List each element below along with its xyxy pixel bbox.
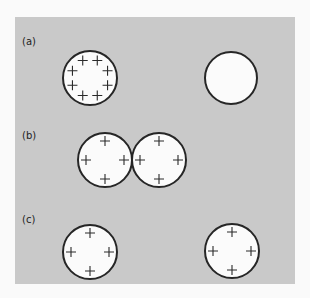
spheres-diagram [0, 0, 310, 298]
sphere-c-1 [63, 225, 117, 279]
sphere-a-2 [205, 52, 257, 104]
sphere-a-1 [63, 51, 117, 105]
sphere-b-1 [78, 133, 132, 187]
sphere-b-2 [132, 133, 186, 187]
sphere-c-2 [205, 224, 259, 278]
